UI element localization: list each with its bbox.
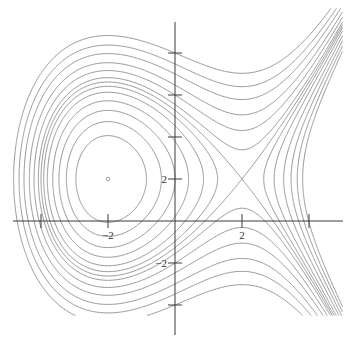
critical-points	[106, 177, 110, 181]
axes: −22 −22	[13, 22, 343, 335]
level-curve	[76, 51, 343, 306]
x-tick-label: −2	[102, 229, 114, 241]
level-curve	[66, 46, 342, 312]
x-tick-label: 2	[239, 229, 245, 241]
y-tick-label: 2	[162, 173, 168, 185]
phase-portrait-chart: −22 −22	[0, 0, 355, 360]
level-curve	[34, 17, 342, 315]
y-tick-label: −2	[155, 257, 167, 269]
level-curve	[38, 22, 342, 316]
level-curves	[14, 8, 343, 315]
center-point-marker	[106, 177, 110, 181]
